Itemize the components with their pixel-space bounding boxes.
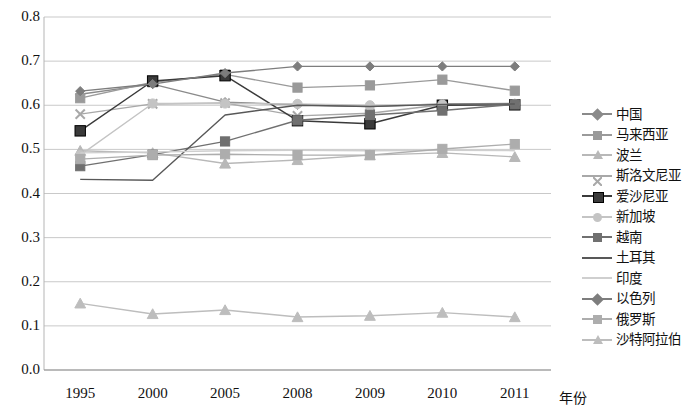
y-axis-tick-label: 0.5 (0, 140, 40, 157)
legend-label: 斯洛文尼亚 (616, 168, 681, 183)
legend-label: 爱沙尼亚 (616, 189, 668, 204)
legend-marker-icon (582, 169, 612, 183)
legend-marker-icon (582, 189, 612, 203)
legend-item-0[interactable]: 中国 (582, 104, 696, 125)
x-axis-tick-label: 2000 (123, 385, 183, 402)
x-axis-tick-label: 1995 (50, 385, 110, 402)
legend-item-9[interactable]: 以色列 (582, 289, 696, 310)
legend-label: 波兰 (616, 148, 642, 163)
x-axis-tick-label: 2008 (268, 385, 328, 402)
legend-marker-icon (582, 333, 612, 347)
x-axis-title: 年份 (559, 387, 587, 407)
legend-item-4[interactable]: 爱沙尼亚 (582, 186, 696, 207)
x-axis-tick-label: 2005 (195, 385, 255, 402)
legend-marker-icon (582, 251, 612, 265)
y-axis-tick-label: 0.0 (0, 361, 40, 378)
legend-marker-icon (582, 312, 612, 326)
legend-item-1[interactable]: 马来西亚 (582, 125, 696, 146)
legend-item-2[interactable]: 波兰 (582, 145, 696, 166)
x-axis-tick-label: 2010 (412, 385, 472, 402)
legend-marker-icon (582, 292, 612, 306)
legend-marker-icon (582, 148, 612, 162)
legend-item-10[interactable]: 俄罗斯 (582, 309, 696, 330)
legend-label: 印度 (616, 271, 642, 286)
legend-marker-icon (582, 271, 612, 285)
legend-label: 中国 (616, 107, 642, 122)
legend-item-5[interactable]: 新加坡 (582, 207, 696, 228)
y-axis-tick-label: 0.8 (0, 8, 40, 25)
legend-label: 俄罗斯 (616, 312, 655, 327)
x-axis-tick-label: 2011 (485, 385, 545, 402)
chart-legend: 中国马来西亚波兰斯洛文尼亚爱沙尼亚新加坡越南土耳其印度以色列俄罗斯沙特阿拉伯 (582, 104, 696, 350)
x-axis-tick-label: 2009 (340, 385, 400, 402)
legend-label: 沙特阿拉伯 (616, 332, 681, 347)
line-chart: 0.00.10.20.30.40.50.60.70.8 199520002005… (0, 0, 696, 414)
y-axis-tick-label: 0.1 (0, 317, 40, 334)
legend-marker-icon (582, 230, 612, 244)
legend-marker-icon (582, 107, 612, 121)
legend-item-6[interactable]: 越南 (582, 227, 696, 248)
y-axis-tick-label: 0.6 (0, 96, 40, 113)
legend-item-11[interactable]: 沙特阿拉伯 (582, 330, 696, 351)
legend-label: 马来西亚 (616, 127, 668, 142)
legend-item-8[interactable]: 印度 (582, 268, 696, 289)
legend-marker-icon (582, 128, 612, 142)
legend-item-3[interactable]: 斯洛文尼亚 (582, 166, 696, 187)
legend-label: 土耳其 (616, 250, 655, 265)
legend-label: 以色列 (616, 291, 655, 306)
legend-label: 越南 (616, 230, 642, 245)
legend-label: 新加坡 (616, 209, 655, 224)
y-axis-tick-label: 0.3 (0, 229, 40, 246)
y-axis-tick-label: 0.2 (0, 273, 40, 290)
legend-marker-icon (582, 210, 612, 224)
y-axis-tick-label: 0.4 (0, 185, 40, 202)
legend-item-7[interactable]: 土耳其 (582, 248, 696, 269)
y-axis-tick-label: 0.7 (0, 52, 40, 69)
